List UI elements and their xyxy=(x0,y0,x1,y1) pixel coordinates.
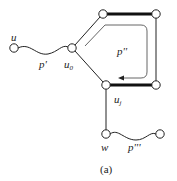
node-w-right xyxy=(156,130,164,138)
label-u: u xyxy=(11,31,17,43)
node-u0 xyxy=(68,44,76,52)
label-p2: p'' xyxy=(116,45,128,57)
node-u xyxy=(10,44,18,52)
edge-u0-tl xyxy=(75,17,100,45)
label-uj: uj xyxy=(114,93,122,107)
node-uj xyxy=(102,81,110,89)
node-bottom-right xyxy=(152,81,160,89)
label-u0: u0 xyxy=(64,58,74,72)
label-p3: p''' xyxy=(127,141,141,153)
edge-u-u0-wavy xyxy=(18,46,68,54)
edge-uj-u0 xyxy=(75,51,103,82)
edge-w-wr-wavy xyxy=(110,132,156,140)
node-top-right xyxy=(152,10,160,18)
caption: (a) xyxy=(100,163,113,176)
label-p1: p' xyxy=(38,58,48,70)
label-w: w xyxy=(101,141,109,153)
arrowhead-icon xyxy=(118,76,124,81)
graph-diagram: u p' u0 p'' uj w p''' (a) xyxy=(0,0,177,181)
node-top-left xyxy=(99,10,107,18)
node-w xyxy=(102,130,110,138)
path-p2-arrow xyxy=(85,25,147,78)
